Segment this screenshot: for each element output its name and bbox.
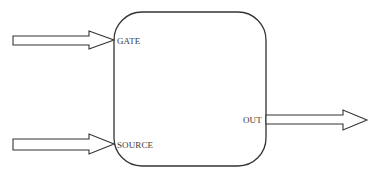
source-port-label: SOURCE [117,140,153,150]
out-output-arrow [266,110,367,130]
gate-input-arrow [13,31,114,49]
out-port-label: OUT [243,115,262,125]
gate-port-label: GATE [117,36,140,46]
source-input-arrow [13,134,114,154]
diagram-canvas [0,0,377,180]
